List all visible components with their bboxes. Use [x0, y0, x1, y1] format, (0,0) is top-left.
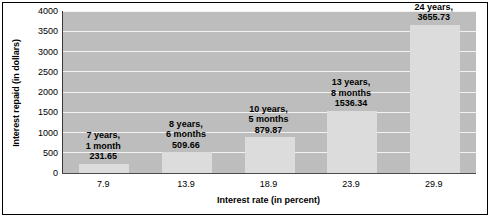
bar-data-label-line: 3655.73 [414, 12, 453, 23]
bar-data-label: 10 years,5 months879.87 [248, 104, 288, 136]
y-axis-tick-label: 1000 [24, 128, 58, 138]
bar-data-label-line: 509.66 [166, 140, 206, 151]
bar-data-label-line: 24 years, [414, 2, 453, 12]
x-axis-tick-label: 29.9 [425, 179, 443, 189]
bar-data-label-line: 7 years, [86, 130, 121, 141]
bar[interactable] [245, 137, 295, 173]
bar-data-label-line: 8 years, [166, 119, 206, 130]
x-axis-tick-label: 18.9 [260, 179, 278, 189]
y-axis-tick-label: 1500 [24, 107, 58, 117]
y-axis-tick-label: 3000 [24, 47, 58, 57]
y-axis-tick-label: 2000 [24, 87, 58, 97]
bar-data-label-line: 6 months [166, 129, 206, 140]
y-axis-tick-label: 500 [24, 148, 58, 158]
plot-area [62, 11, 476, 173]
y-axis-tick-label: 0 [24, 168, 58, 178]
y-axis-title: Interest repaid (in dollars) [7, 3, 25, 183]
x-axis-line [62, 173, 476, 174]
y-axis-tick-labels: 05001000150020002500300035004000 [25, 11, 61, 173]
bar-data-label-line: 1536.34 [331, 98, 371, 109]
y-axis-tick-label: 3500 [24, 26, 58, 36]
bar-data-label: 8 years,6 months509.66 [166, 119, 206, 151]
bar-data-label-line: 879.87 [248, 125, 288, 136]
x-axis-tick-label: 13.9 [177, 179, 195, 189]
bar-data-label: 13 years,8 months1536.34 [331, 77, 371, 109]
bar-data-label: 7 years,1 month231.65 [86, 130, 121, 162]
bar-data-label-line: 5 months [248, 114, 288, 125]
bar[interactable] [162, 152, 212, 173]
y-axis-title-label: Interest repaid (in dollars) [11, 39, 21, 147]
bar[interactable] [327, 111, 377, 173]
bar-data-label-line: 8 months [331, 88, 371, 99]
bar-data-label-line: 10 years, [248, 104, 288, 115]
bar[interactable] [410, 25, 460, 173]
y-axis-tick-label: 2500 [24, 67, 58, 77]
x-axis-tick-label: 7.9 [97, 179, 110, 189]
x-axis-tick-label: 23.9 [342, 179, 360, 189]
y-axis-tick-label: 4000 [24, 6, 58, 16]
bar[interactable] [79, 164, 129, 173]
bar-data-label-line: 13 years, [331, 77, 371, 88]
bar-data-label: 24 years,3655.73 [414, 2, 453, 23]
bar-chart: Interest repaid (in dollars) 05001000150… [2, 2, 488, 215]
bar-data-label-line: 1 month [86, 141, 121, 152]
x-axis-title: Interest rate (in percent) [62, 195, 475, 205]
bar-data-label-line: 231.65 [86, 151, 121, 162]
